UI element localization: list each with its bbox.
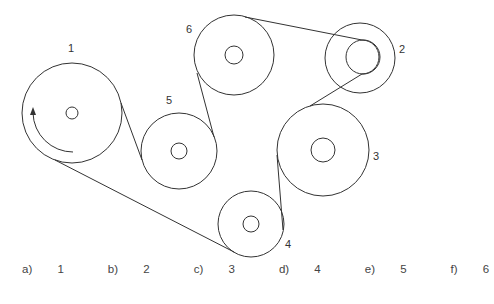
- pulley-label-5: 5: [166, 94, 172, 106]
- pulley-1: [22, 63, 122, 163]
- answer-option-a[interactable]: a) 1: [22, 263, 86, 275]
- option-letter: b): [108, 263, 118, 275]
- pulley-3: [277, 104, 369, 196]
- pulley-label-1: 1: [68, 42, 74, 54]
- pulley-label-6: 6: [186, 23, 192, 35]
- pulley-label-2: 2: [399, 43, 405, 55]
- option-value: 3: [228, 263, 234, 275]
- pulley-label-3: 3: [373, 150, 379, 162]
- pulley-4: [218, 191, 284, 257]
- option-value: 6: [483, 263, 489, 275]
- answer-option-e[interactable]: e) 5: [365, 263, 429, 275]
- answer-options: a) 1 b) 2 c) 3 d) 4 e) 5 f) 6: [22, 263, 494, 275]
- answer-option-f[interactable]: f) 6: [451, 263, 494, 275]
- option-letter: c): [194, 263, 204, 275]
- belt: [55, 17, 379, 252]
- answer-option-c[interactable]: c) 3: [194, 263, 257, 275]
- pulley-6: [194, 15, 274, 95]
- answer-option-d[interactable]: d) 4: [279, 263, 343, 275]
- answer-option-b[interactable]: b) 2: [108, 263, 172, 275]
- pulley-5: [141, 113, 217, 189]
- option-letter: e): [365, 263, 375, 275]
- option-value: 5: [400, 263, 406, 275]
- pulley-2: [325, 23, 395, 93]
- option-value: 2: [143, 263, 149, 275]
- option-letter: f): [451, 263, 458, 275]
- rotation-arrow-icon: [33, 113, 73, 152]
- option-letter: a): [22, 263, 32, 275]
- pulley-label-4: 4: [285, 238, 291, 250]
- option-value: 4: [314, 263, 320, 275]
- option-letter: d): [279, 263, 289, 275]
- option-value: 1: [57, 263, 63, 275]
